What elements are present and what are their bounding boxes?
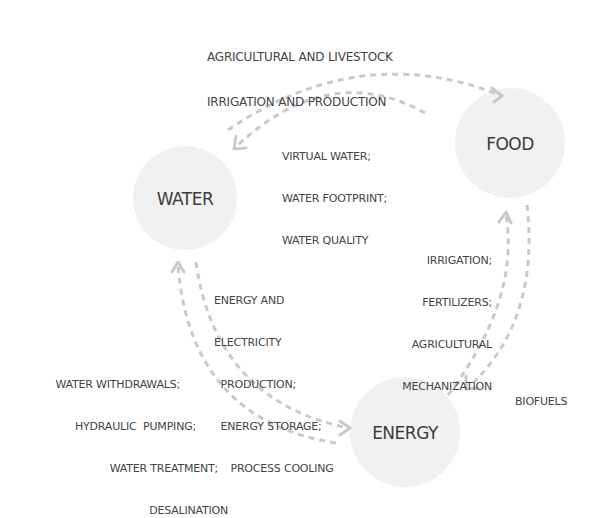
flow-label-water-to-food: AGRICULTURAL AND LIVESTOCK IRRIGATION AN… — [207, 20, 393, 125]
flow-line: FERTILIZERS; — [352, 296, 492, 310]
flow-line: ENERGY AND — [214, 294, 334, 308]
flow-line: PRODUCTION; — [214, 378, 334, 392]
flow-line: WATER TREATMENT; — [10, 462, 228, 476]
flow-line: PROCESS COOLING — [214, 462, 334, 476]
flow-label-energy-to-water: WATER WITHDRAWALS; HYDRAULIC PUMPING; WA… — [10, 350, 228, 518]
flow-line: WATER WITHDRAWALS; — [10, 378, 228, 392]
flow-line: BIOFUELS — [515, 395, 567, 409]
flow-label-water-to-energy: ENERGY AND ELECTRICITY PRODUCTION; ENERG… — [214, 266, 334, 490]
flow-line: AGRICULTURAL AND LIVESTOCK — [207, 50, 393, 65]
flow-line: MECHANIZATION — [352, 380, 492, 394]
flow-line: ENERGY STORAGE; — [214, 420, 334, 434]
flow-line: HYDRAULIC PUMPING; — [10, 420, 228, 434]
energy-label: ENERGY — [372, 423, 439, 443]
flow-label-food-to-energy: BIOFUELS — [515, 367, 567, 423]
flow-line: VIRTUAL WATER; — [282, 150, 387, 164]
flow-line: IRRIGATION; — [352, 254, 492, 268]
flow-line: DESALINATION — [10, 504, 228, 518]
flow-label-energy-to-food: IRRIGATION; FERTILIZERS; AGRICULTURAL ME… — [352, 226, 492, 408]
flow-line: IRRIGATION AND PRODUCTION — [207, 95, 393, 110]
food-label: FOOD — [486, 134, 534, 154]
flow-line: ELECTRICITY — [214, 336, 334, 350]
flow-line: WATER FOOTPRINT; — [282, 192, 387, 206]
flow-line: AGRICULTURAL — [352, 338, 492, 352]
water-label: WATER — [157, 189, 214, 209]
